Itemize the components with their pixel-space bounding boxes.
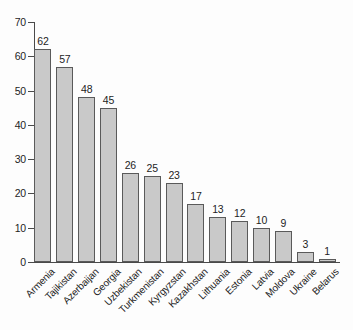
bar-chart: 010203040506070 625748452625231713121093… [0,0,353,330]
bar[interactable] [56,67,73,262]
bar-value-label: 45 [95,95,123,106]
bar[interactable] [100,108,117,262]
bar-value-label: 23 [160,170,188,181]
bar[interactable] [187,204,204,262]
bar[interactable] [209,217,226,262]
bar[interactable] [144,176,161,262]
bar[interactable] [166,183,183,262]
bar[interactable] [275,231,292,262]
bar[interactable] [231,221,248,262]
bar-value-label: 9 [269,218,297,229]
bar[interactable] [122,173,139,262]
bar[interactable] [297,252,314,262]
bar-value-label: 57 [51,54,79,65]
bar-value-label: 1 [313,246,341,257]
bar[interactable] [319,259,336,262]
bar-value-label: 62 [29,36,57,47]
bar-value-label: 48 [73,84,101,95]
bar[interactable] [34,49,51,262]
bar-value-label: 17 [182,191,210,202]
bar[interactable] [253,228,270,262]
bar[interactable] [78,97,95,262]
